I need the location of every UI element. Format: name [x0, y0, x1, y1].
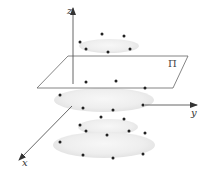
point-dot	[142, 104, 145, 107]
point-dot	[82, 154, 85, 157]
ring-ellipses	[53, 39, 155, 158]
x-axis-label: x	[22, 157, 28, 168]
y-axis-label: y	[190, 107, 197, 118]
point-dot	[100, 116, 103, 119]
point-dot	[123, 118, 126, 121]
point-dot	[85, 81, 88, 84]
diagram-svg: z y x Π	[0, 0, 205, 176]
point-dot	[106, 134, 109, 137]
bottom-ring-ellipse	[53, 132, 155, 158]
point-dot	[129, 48, 132, 51]
point-dot	[79, 124, 82, 127]
point-dot	[112, 157, 115, 160]
point-dot	[101, 33, 104, 36]
point-dot	[115, 80, 118, 83]
point-dot	[79, 41, 82, 44]
plane-label: Π	[168, 58, 177, 69]
middle-ring-ellipse	[54, 88, 154, 112]
z-axis-label: z	[66, 5, 73, 16]
point-dot	[59, 94, 62, 97]
point-dot	[59, 141, 62, 144]
point-dot	[85, 48, 88, 51]
point-dot	[144, 87, 147, 90]
diagram-canvas: z y x Π	[0, 0, 205, 176]
point-dot	[82, 107, 85, 110]
point-dot	[142, 153, 145, 156]
point-dot	[112, 109, 115, 112]
point-dot	[128, 130, 131, 133]
point-dot	[107, 51, 110, 54]
point-dot	[123, 35, 126, 38]
plane-pi	[37, 56, 188, 88]
point-dot	[144, 132, 147, 135]
point-dot	[85, 130, 88, 133]
